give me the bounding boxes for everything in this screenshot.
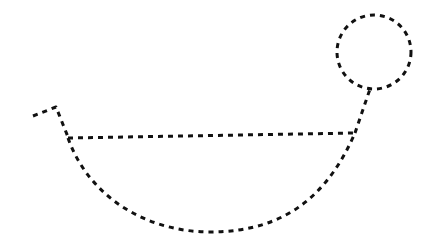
horizontal-dashed-line <box>68 133 355 138</box>
diagram-canvas <box>0 0 438 249</box>
dashed-circle <box>337 15 411 89</box>
stem-to-circle <box>355 89 370 133</box>
left-zigzag-line <box>33 107 68 137</box>
dashed-drawing <box>0 0 438 249</box>
bottom-curve <box>68 133 355 232</box>
